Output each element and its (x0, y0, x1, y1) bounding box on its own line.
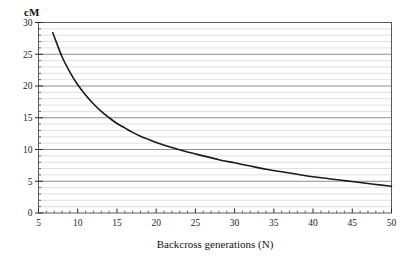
x-tick-label: 30 (230, 218, 240, 228)
x-tick-label: 35 (269, 218, 279, 228)
x-tick-label: 45 (348, 218, 358, 228)
line-chart: 5101520253035404550 051015202530 cM Back… (0, 0, 410, 260)
x-tick-label: 25 (191, 218, 201, 228)
x-tick-label: 50 (387, 218, 397, 228)
x-tick-label: 40 (308, 218, 318, 228)
y-tick-label: 5 (28, 177, 33, 187)
x-axis-title: Backcross generations (N) (157, 238, 274, 251)
y-tick-label: 0 (28, 208, 33, 218)
x-tick-label: 15 (112, 218, 122, 228)
chart-figure: 5101520253035404550 051015202530 cM Back… (0, 0, 410, 260)
x-tick-label: 20 (151, 218, 161, 228)
y-tick-label: 20 (23, 81, 33, 91)
y-axis-unit-label: cM (24, 6, 40, 18)
y-tick-label: 30 (23, 18, 33, 28)
x-tick-label: 5 (36, 218, 41, 228)
x-tick-label: 10 (73, 218, 83, 228)
y-tick-label: 25 (23, 50, 33, 60)
y-tick-label: 15 (23, 113, 33, 123)
y-tick-label: 10 (23, 145, 33, 155)
